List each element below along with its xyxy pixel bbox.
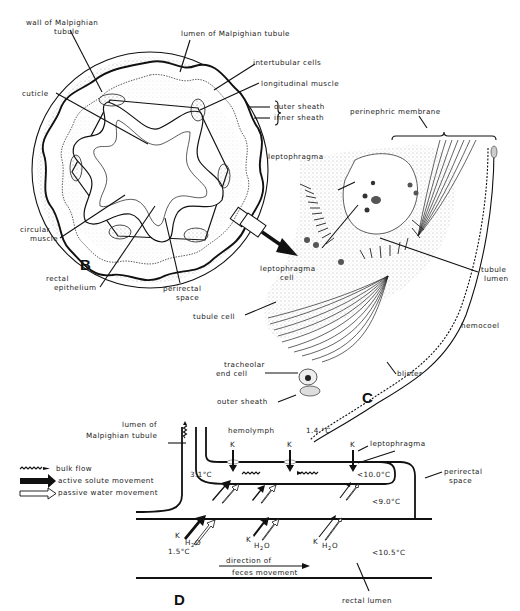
label-cuticle: cuticle — [22, 89, 49, 98]
label-leptophragma-c: leptophragma — [268, 152, 323, 161]
label-wall-malpighian-2: tubule — [54, 27, 79, 36]
label-k: K — [230, 440, 235, 449]
temp-perirectal: <9.0°C — [372, 497, 400, 506]
label-direction-of: direction of — [226, 556, 272, 565]
label-rectal-epithelium-2: epithelium — [54, 283, 96, 292]
label-k: K — [350, 440, 355, 449]
longitudinal-muscle-blob — [109, 225, 131, 239]
leader-line — [419, 116, 427, 128]
legend-passive-water-icon — [20, 488, 56, 499]
organelle — [313, 242, 319, 248]
label-k: K — [246, 535, 251, 544]
temp-hemolymph: 1.4 °C — [306, 426, 331, 435]
organelle — [304, 237, 310, 243]
label-blister: blister — [397, 369, 422, 378]
label-tubule-lumen: tubule — [481, 265, 506, 274]
k-influx-arrowhead — [349, 465, 357, 472]
passive-water-arrow — [346, 484, 359, 500]
legend-active-solute-icon — [20, 474, 56, 488]
tracheolar-nucleus — [305, 375, 311, 381]
label-perirectal-space-2: space — [176, 293, 199, 302]
organelle — [365, 208, 370, 213]
label-leptophragma-cell-2: cell — [280, 273, 294, 282]
panel-d-schematic: bulk flow active solute movement passive… — [20, 420, 482, 608]
label-h2o: H 2 O — [254, 541, 270, 551]
legend-bulk-flow-icon — [20, 467, 42, 469]
label-leptophragma-d: leptophragma — [370, 439, 425, 448]
bulk-flow-up-icon — [184, 424, 187, 438]
label-tubule-lumen-2: lumen — [484, 274, 509, 283]
k-influx-arrowhead — [229, 465, 237, 472]
longitudinal-muscle-blob — [70, 155, 82, 181]
bulk-flow-up-arrowhead — [183, 421, 187, 425]
perinephric-membrane-brace — [392, 132, 496, 140]
cell-inclusion — [491, 146, 497, 158]
label-tubule-cell: tubule cell — [193, 312, 235, 321]
organelle — [371, 181, 375, 185]
bulk-flow-icon — [242, 472, 260, 474]
bulk-flow-icon — [300, 472, 318, 474]
label-h2o: H 2 O — [322, 541, 338, 551]
label-outer-sheath: outer sheath — [274, 102, 325, 111]
legend-bulk-flow-arrowhead — [43, 467, 50, 470]
label-tracheolar-end-cell: tracheolar — [224, 360, 265, 369]
legend-active-solute: active solute movement — [58, 476, 154, 485]
bulk-flow-arrowhead — [297, 471, 302, 475]
label-malpighian-tubule-d: Malpighian tubule — [86, 431, 157, 440]
label-rectal-epithelium: rectal — [46, 274, 69, 283]
label-rectal-lumen: rectal lumen — [342, 596, 392, 605]
longitudinal-muscle-blob — [191, 99, 205, 121]
label-feces-movement: feces movement — [232, 568, 298, 577]
label-intertubular-cells: intertubular cells — [253, 58, 321, 67]
panel-label-c: C — [362, 389, 373, 406]
label-longitudinal-muscle: longitudinal muscle — [261, 79, 339, 88]
label-k: K — [287, 440, 292, 449]
legend-bulk-flow: bulk flow — [56, 464, 92, 473]
h2o-o: O — [195, 538, 201, 547]
outer-sheath-cell — [300, 386, 320, 396]
longitudinal-muscle-blob — [218, 164, 230, 188]
leader-line — [425, 472, 442, 478]
nucleus — [371, 196, 381, 204]
legend-passive-water: passive water movement — [58, 488, 158, 497]
label-inner-sheath: inner sheath — [274, 113, 324, 122]
k-influx-arrowhead — [286, 465, 294, 472]
longitudinal-muscle-blob — [99, 94, 125, 106]
label-tracheolar-end-cell-2: end cell — [216, 369, 247, 378]
label-perirectal-space: perirectal — [163, 284, 201, 293]
label-lumen-malpighian: lumen of Malpighian tubule — [181, 29, 290, 38]
h2o-h: H — [322, 541, 328, 550]
h2o-o: O — [332, 541, 338, 550]
label-k: K — [313, 537, 318, 546]
label-k: K — [175, 531, 180, 540]
active-solute-arrow-thin — [340, 486, 349, 498]
leader-line — [278, 395, 296, 402]
active-solute-arrow-thin — [319, 518, 334, 537]
organelle — [338, 259, 344, 265]
leader-line — [387, 362, 396, 374]
label-perirectal-space-d: perirectal — [444, 467, 482, 476]
feces-direction-arrowhead — [302, 563, 310, 569]
temp-leptophragma-region: <10.0°C — [357, 470, 390, 479]
label-hemolymph: hemolymph — [228, 426, 274, 435]
organelle — [363, 194, 368, 199]
h2o-h: H — [254, 541, 260, 550]
diagram-canvas: wall of Malpighian tubule lumen of Malpi… — [0, 0, 520, 611]
active-solute-arrow — [252, 485, 265, 501]
label-hemocoel: hemocoel — [461, 321, 499, 330]
label-circular-muscle-2: muscle — [30, 234, 58, 243]
temp-rectal-lumen: <10.5°C — [372, 548, 405, 557]
panel-label-d: D — [174, 591, 185, 608]
label-wall-malpighian: wall of Malpighian — [26, 18, 98, 27]
organelle — [408, 183, 413, 188]
longitudinal-muscle-blob — [184, 228, 208, 242]
label-circular-muscle: circular — [20, 225, 50, 234]
leader-line — [358, 446, 368, 451]
panel-label-b: B — [80, 256, 91, 273]
h2o-o: O — [264, 541, 270, 550]
leader-line — [357, 563, 369, 591]
temp-tubule: 3.1°C — [190, 470, 212, 479]
label-lumen-of: lumen of — [122, 420, 157, 429]
passive-water-arrow — [325, 518, 342, 540]
label-leptophragma-cell: leptophragma — [260, 264, 315, 273]
